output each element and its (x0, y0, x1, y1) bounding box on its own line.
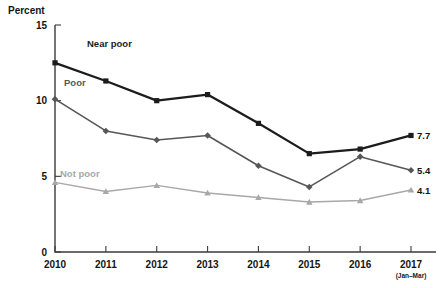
data-point (358, 146, 363, 151)
data-point (154, 98, 159, 103)
data-point (204, 132, 211, 139)
series-near-poor (52, 60, 413, 156)
x-tick-label: 2011 (95, 259, 117, 270)
data-point (103, 78, 108, 83)
data-point (408, 187, 414, 193)
x-tick-label: 2017 (400, 259, 423, 270)
x-tick-label: 2014 (247, 259, 270, 270)
y-axis-ticks: 051015 (36, 20, 61, 258)
x-axis-ticks: 20102011201220132014201520162017(Jan–Mar… (44, 246, 426, 280)
y-tick-label: 10 (36, 95, 48, 106)
x-tick-label: 2012 (146, 259, 169, 270)
series-layer (52, 60, 415, 204)
y-tick-label: 15 (36, 20, 48, 31)
series-not-poor (52, 179, 414, 204)
data-point (256, 121, 261, 126)
data-point (306, 184, 313, 191)
series-label-near-poor: Near poor (87, 38, 132, 49)
end-label-near-poor: 7.7 (417, 130, 430, 141)
x-tick-sublabel: (Jan–Mar) (396, 272, 427, 280)
x-tick-label: 2010 (44, 259, 67, 270)
y-tick-label: 0 (41, 247, 47, 258)
data-point (52, 60, 57, 65)
data-point (255, 162, 262, 169)
data-point (153, 137, 160, 144)
chart-axes (55, 25, 436, 252)
series-line (55, 63, 411, 154)
series-line (55, 99, 411, 187)
x-tick-label: 2013 (196, 259, 219, 270)
data-point (307, 151, 312, 156)
y-axis-title: Percent (8, 5, 45, 16)
chart-container: Percent 051015 2010201120122013201420152… (0, 0, 442, 288)
x-tick-label: 2015 (298, 259, 321, 270)
series-end-labels: 7.75.44.1 (417, 130, 431, 195)
data-point (205, 92, 210, 97)
y-tick-label: 5 (41, 171, 47, 182)
data-point (408, 167, 415, 174)
end-label-not-poor: 4.1 (417, 185, 431, 196)
data-point (357, 153, 364, 160)
end-label-poor: 5.4 (417, 165, 431, 176)
series-label-not-poor: Not poor (60, 168, 100, 179)
data-point (408, 133, 413, 138)
series-label-poor: Poor (64, 77, 86, 88)
line-chart: Percent 051015 2010201120122013201420152… (0, 0, 442, 288)
series-line (55, 182, 411, 202)
x-tick-label: 2016 (349, 259, 372, 270)
